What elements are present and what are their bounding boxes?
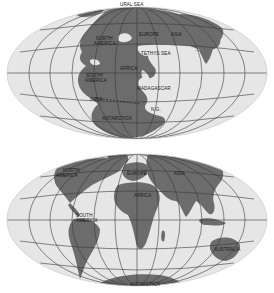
label-north-america-2: AMERICA	[94, 41, 116, 46]
pangaea-map: URAL SEA NORTH AMERICA EUROPE ASIA TETHY…	[0, 0, 274, 146]
label-africa: AFRICA	[120, 66, 138, 71]
label-tethys-sea: TETHYS SEA	[141, 51, 171, 56]
label-new-guinea: N.G.	[151, 107, 161, 112]
label-north-america-2: AMERICA	[56, 173, 78, 178]
label-asia: ASIA	[171, 32, 183, 37]
label-europe: EUROPE	[127, 171, 147, 176]
label-india: INDIA	[90, 97, 104, 102]
label-australia: AUSTRALIA	[214, 247, 241, 252]
pangaea-map-graphic: URAL SEA NORTH AMERICA EUROPE ASIA TETHY…	[0, 0, 274, 146]
modern-map: NORTH AMERICA EUROPE ASIA AFRICA SOUTH A…	[0, 147, 274, 293]
label-antarctica: ANTARCTICA	[102, 116, 133, 121]
label-asia: ASIA	[174, 171, 186, 176]
label-ural-sea: URAL SEA	[120, 2, 144, 7]
label-antarctica: ANTARCTICA	[130, 282, 161, 287]
graticule	[0, 7, 274, 139]
label-africa: AFRICA	[134, 193, 152, 198]
label-madagascar: MADAGASCAR	[137, 86, 171, 91]
label-south-america-2: AMERICA	[76, 218, 98, 223]
label-south-america-2: AMERICA	[85, 78, 107, 83]
label-europe: EUROPE	[139, 32, 159, 37]
modern-map-graphic: NORTH AMERICA EUROPE ASIA AFRICA SOUTH A…	[0, 147, 274, 293]
